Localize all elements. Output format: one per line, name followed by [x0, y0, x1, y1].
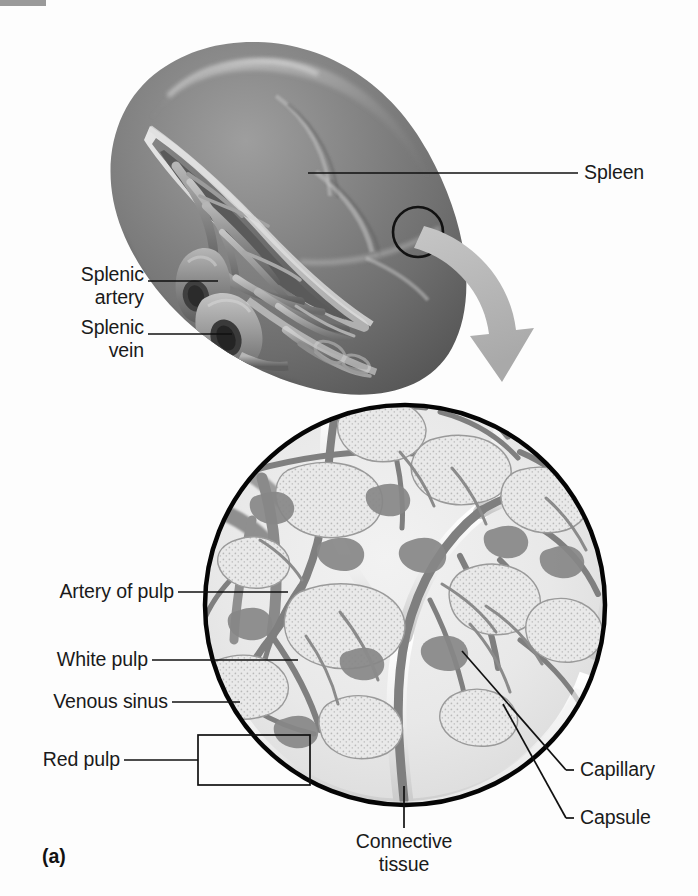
label-capillary: Capillary	[580, 758, 655, 781]
label-splenic-vein: Splenic vein	[40, 316, 144, 362]
red-pulp-bracket	[198, 735, 310, 785]
leader-capsule	[503, 704, 566, 818]
leader-capillary	[462, 651, 566, 770]
spleen-pulp-magnified-view	[140, 382, 613, 817]
magnification-callout-circle	[393, 207, 443, 257]
label-splenic-artery: Splenic artery	[40, 263, 144, 309]
label-red-pulp: Red pulp	[18, 748, 120, 771]
spleen-organ-illustration	[111, 42, 467, 395]
panel-letter: (a)	[42, 845, 66, 868]
label-white-pulp: White pulp	[18, 648, 148, 671]
label-capsule: Capsule	[580, 806, 651, 829]
splenic-artery-vessel	[176, 248, 231, 323]
label-connective-tissue: Connective tissue	[318, 830, 490, 876]
spleen-figure: Splenic artery Splenic vein Spleen Arter…	[0, 0, 698, 896]
label-venous-sinus: Venous sinus	[18, 690, 168, 713]
magnified-view-outline	[205, 405, 605, 805]
page-edge-bar	[0, 0, 46, 6]
magnification-arrow	[414, 226, 534, 382]
splenic-vein-vessel	[195, 293, 288, 372]
leader-lines	[124, 173, 578, 828]
label-artery-of-pulp: Artery of pulp	[18, 580, 174, 603]
label-spleen: Spleen	[584, 161, 644, 184]
